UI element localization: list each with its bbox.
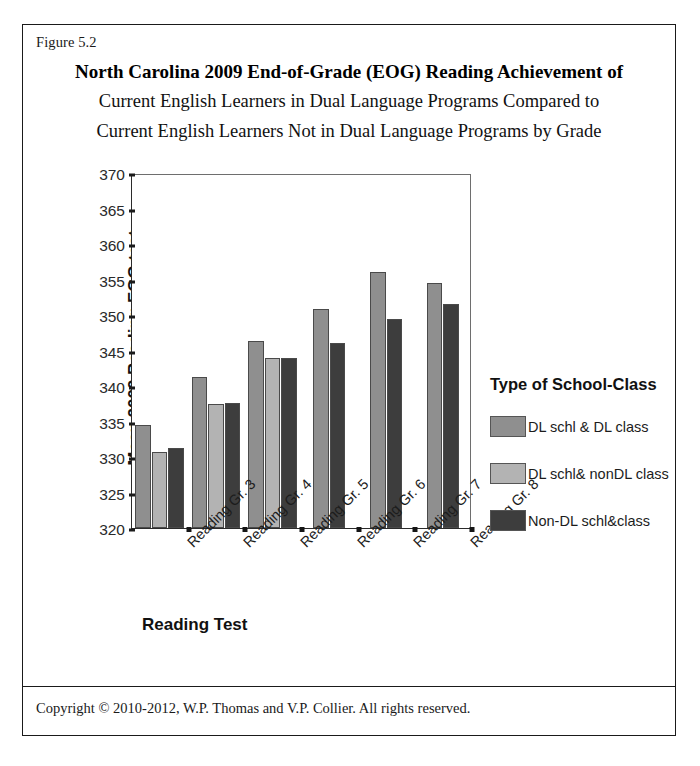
y-axis-tick-label: 350	[99, 308, 132, 326]
y-axis-tick-mark	[129, 280, 135, 283]
y-axis-tick-label: 345	[99, 344, 132, 362]
y-axis-tick-mark	[129, 351, 135, 354]
y-axis-tick-label: 355	[99, 273, 132, 291]
legend-swatch	[490, 463, 526, 484]
y-axis-tick-label: 330	[99, 450, 132, 468]
plot-area: 320325330335340345350355360365370	[131, 174, 471, 529]
y-axis-tick-mark	[129, 316, 135, 319]
y-axis-tick-mark	[129, 529, 135, 532]
bar	[135, 425, 151, 528]
legend-title: Type of School-Class	[490, 375, 675, 394]
legend-entries: DL schl & DL classDL schl& nonDL classNo…	[490, 416, 675, 531]
bar	[248, 341, 264, 528]
bar	[427, 283, 443, 528]
y-axis-tick-label: 320	[99, 521, 132, 539]
chart-title-line-1: North Carolina 2009 End-of-Grade (EOG) R…	[40, 58, 658, 86]
y-axis-tick-label: 365	[99, 202, 132, 220]
legend-entry: DL schl& nonDL class	[490, 463, 675, 484]
legend: Type of School-Class DL schl & DL classD…	[490, 375, 675, 557]
y-axis-tick-mark	[129, 387, 135, 390]
figure-label: Figure 5.2	[36, 34, 97, 51]
legend-swatch	[490, 510, 526, 531]
legend-entry: Non-DL schl&class	[490, 510, 675, 531]
bar	[168, 448, 184, 528]
legend-label: DL schl& nonDL class	[528, 466, 669, 482]
bar	[192, 377, 208, 528]
legend-swatch	[490, 416, 526, 437]
y-axis-tick-label: 360	[99, 237, 132, 255]
y-axis-tick-mark	[129, 245, 135, 248]
x-axis-title: Reading Test	[142, 615, 247, 635]
y-axis-tick-mark	[129, 174, 135, 177]
chart-title: North Carolina 2009 End-of-Grade (EOG) R…	[40, 58, 658, 146]
y-axis-tick-mark	[129, 209, 135, 212]
y-axis-tick-label: 325	[99, 486, 132, 504]
chart-area: Mean 2009 Reading EOG test 3203253303353…	[22, 160, 676, 660]
figure-page: Figure 5.2 North Carolina 2009 End-of-Gr…	[0, 0, 700, 766]
copyright-notice: Copyright © 2010-2012, W.P. Thomas and V…	[36, 700, 470, 717]
y-axis-tick-label: 340	[99, 379, 132, 397]
chart-title-line-3: Current English Learners Not in Dual Lan…	[40, 116, 658, 146]
bar	[152, 452, 168, 528]
bar	[313, 309, 329, 528]
legend-label: DL schl & DL class	[528, 419, 649, 435]
chart-title-line-2: Current English Learners in Dual Languag…	[40, 86, 658, 116]
legend-label: Non-DL schl&class	[528, 513, 650, 529]
y-axis-tick-label: 335	[99, 415, 132, 433]
bar	[370, 272, 386, 528]
y-axis-tick-label: 370	[99, 166, 132, 184]
footer-divider	[23, 686, 675, 687]
legend-entry: DL schl & DL class	[490, 416, 675, 437]
